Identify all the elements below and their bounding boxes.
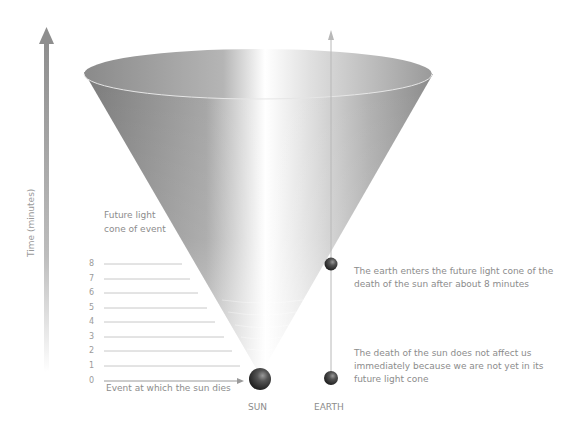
note-not-affected: The death of the sun does not affect us … — [354, 347, 564, 386]
tick-4: 4 — [84, 317, 94, 326]
tick-6: 6 — [84, 288, 94, 297]
tick-3: 3 — [84, 332, 94, 341]
cone-label-line2: cone of event — [104, 223, 166, 235]
time-axis-label: Time (minutes) — [26, 189, 36, 257]
earth-entry-sphere — [325, 258, 338, 271]
tick-8: 8 — [84, 259, 94, 268]
cone-label-line1: Future light — [104, 209, 155, 221]
tick-0: 0 — [84, 376, 94, 385]
sun-label: SUN — [248, 401, 267, 413]
event-label: Event at which the sun dies — [106, 382, 231, 394]
note-earth-enters: The earth enters the future light cone o… — [354, 265, 564, 291]
earth-sphere — [324, 371, 338, 385]
time-axis-arrow — [39, 27, 54, 372]
tick-1: 1 — [84, 361, 94, 370]
sun-sphere — [249, 368, 271, 390]
earth-label: EARTH — [314, 401, 344, 413]
tick-7: 7 — [84, 274, 94, 283]
tick-5: 5 — [84, 303, 94, 312]
tick-2: 2 — [84, 346, 94, 355]
